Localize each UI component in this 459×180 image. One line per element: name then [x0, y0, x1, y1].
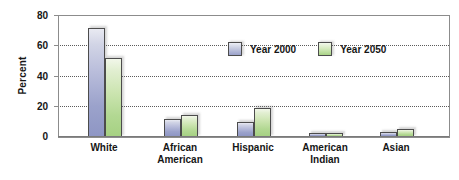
plot-area	[58, 15, 450, 138]
legend-swatch-icon	[228, 42, 242, 56]
bar-y2050-white	[105, 58, 122, 137]
bar-y2000-african-american	[164, 119, 181, 137]
y-tick-label: 60	[0, 40, 48, 51]
x-tick-label-hispanic: Hispanic	[213, 142, 293, 154]
y-tick-label: 40	[0, 70, 48, 81]
y-tick-label: 80	[0, 10, 48, 21]
x-tick-label-line: Hispanic	[213, 142, 293, 154]
x-tick-label-line: American	[285, 142, 365, 154]
x-tick-label-line: White	[64, 142, 144, 154]
x-tick-label-asian: Asian	[356, 142, 436, 154]
bar-group	[88, 16, 122, 137]
bar-chart-figure: Percent 020406080 Year 2000Year 2050 Whi…	[0, 0, 459, 180]
x-tick-label-white: White	[64, 142, 144, 154]
bar-y2000-hispanic	[237, 122, 254, 137]
legend-label: Year 2050	[340, 44, 386, 55]
chart-legend: Year 2000Year 2050	[228, 39, 386, 59]
legend-item-year-2050: Year 2050	[318, 42, 386, 56]
x-tick-label-line: American	[140, 154, 220, 166]
bar-y2050-hispanic	[254, 108, 271, 137]
x-tick-label-american-indian: AmericanIndian	[285, 142, 365, 166]
x-tick-label-line: Asian	[356, 142, 436, 154]
bar-y2000-white	[88, 28, 105, 137]
x-tick-label-line: African	[140, 142, 220, 154]
y-tick-label: 20	[0, 100, 48, 111]
bar-group	[237, 16, 271, 137]
x-tick-label-line: Indian	[285, 154, 365, 166]
bar-group	[309, 16, 343, 137]
y-tick-label: 0	[0, 131, 48, 142]
x-axis-baseline	[58, 136, 449, 137]
x-tick-label-african-american: AfricanAmerican	[140, 142, 220, 166]
y-axis-line	[58, 15, 59, 137]
legend-label: Year 2000	[250, 44, 296, 55]
bar-group	[380, 16, 414, 137]
legend-item-year-2000: Year 2000	[228, 42, 296, 56]
bar-group	[164, 16, 198, 137]
legend-swatch-icon	[318, 42, 332, 56]
bar-y2050-african-american	[181, 115, 198, 137]
